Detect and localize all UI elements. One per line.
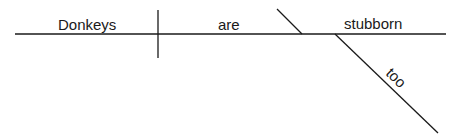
subject-word: Donkeys [58, 17, 116, 32]
complement-slant-divider [277, 9, 302, 34]
complement-word: stubborn [344, 16, 402, 31]
modifier-diagonal [335, 34, 438, 133]
verb-word: are [218, 17, 240, 32]
